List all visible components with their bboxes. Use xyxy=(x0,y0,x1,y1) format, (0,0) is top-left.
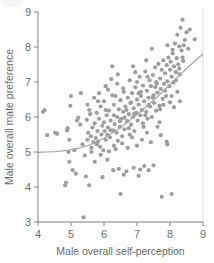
data-point xyxy=(165,79,169,83)
data-point xyxy=(64,181,68,185)
data-point xyxy=(166,55,170,59)
data-point xyxy=(81,215,85,219)
x-tick-label: 8 xyxy=(167,228,173,240)
data-point xyxy=(71,168,75,172)
data-point xyxy=(149,84,153,88)
data-point xyxy=(163,71,167,75)
data-point xyxy=(99,104,103,108)
data-point xyxy=(109,77,113,81)
data-point xyxy=(174,70,178,74)
data-point xyxy=(165,63,169,67)
data-point xyxy=(157,120,161,124)
data-point xyxy=(156,62,160,66)
data-point xyxy=(136,118,140,122)
data-point xyxy=(89,134,93,138)
data-point xyxy=(168,100,172,104)
data-point xyxy=(145,89,149,93)
plot-frame-line xyxy=(38,8,203,222)
data-point xyxy=(159,133,163,137)
data-point xyxy=(107,149,111,153)
data-point xyxy=(104,84,108,88)
data-point xyxy=(161,103,165,107)
data-point xyxy=(117,167,121,171)
data-point xyxy=(110,93,114,97)
plot-frame xyxy=(38,8,203,222)
data-point xyxy=(132,166,136,170)
data-point xyxy=(140,138,144,142)
data-point xyxy=(131,64,135,68)
data-point xyxy=(143,113,147,117)
data-point xyxy=(142,99,146,103)
data-point xyxy=(155,90,159,94)
data-point xyxy=(92,96,96,100)
data-point xyxy=(118,119,122,123)
y-tick-label: 6 xyxy=(25,111,31,123)
data-point xyxy=(182,43,186,47)
data-point xyxy=(93,160,97,164)
data-point xyxy=(120,134,124,138)
y-tick-label: 8 xyxy=(25,41,31,53)
data-point xyxy=(153,65,157,69)
y-tick-label: 5 xyxy=(25,146,31,158)
data-point xyxy=(124,108,128,112)
data-point xyxy=(173,41,177,45)
data-point xyxy=(100,175,104,179)
data-point xyxy=(55,132,59,136)
data-point xyxy=(170,94,174,98)
y-tick-label: 9 xyxy=(25,6,31,18)
data-point xyxy=(99,132,103,136)
data-point xyxy=(133,85,137,89)
data-point xyxy=(133,70,137,74)
x-tick-label: 6 xyxy=(101,228,107,240)
data-point xyxy=(144,58,148,62)
data-point xyxy=(115,82,119,86)
y-tick-label: 7 xyxy=(25,76,31,88)
data-point xyxy=(177,67,181,71)
data-point xyxy=(126,96,130,100)
data-point xyxy=(122,116,126,120)
data-point xyxy=(127,126,131,130)
data-point xyxy=(67,138,71,142)
data-point xyxy=(79,91,83,95)
data-point xyxy=(116,72,120,76)
data-point xyxy=(188,27,192,31)
data-point xyxy=(178,26,182,30)
data-point xyxy=(177,44,181,48)
data-point xyxy=(181,59,185,63)
data-point xyxy=(66,126,70,130)
data-point xyxy=(158,76,162,80)
data-point xyxy=(139,90,143,94)
data-point xyxy=(102,99,106,103)
x-tick-label: 5 xyxy=(68,228,74,240)
data-point xyxy=(141,121,145,125)
data-point xyxy=(85,103,89,107)
data-point xyxy=(146,168,150,172)
data-point xyxy=(103,129,107,133)
scatter-plot-figure: 3456789456789Male overall self-perceptio… xyxy=(0,0,214,263)
data-point xyxy=(160,68,164,72)
data-point xyxy=(120,141,124,145)
data-point xyxy=(171,48,175,52)
data-point xyxy=(43,108,47,112)
data-point xyxy=(135,144,139,148)
data-point xyxy=(159,87,163,91)
data-point xyxy=(186,47,190,51)
data-point xyxy=(155,125,159,129)
x-tick-label: 9 xyxy=(200,228,206,240)
data-point xyxy=(142,125,146,129)
data-point xyxy=(105,158,109,162)
data-point xyxy=(94,136,98,140)
data-point xyxy=(176,62,180,66)
data-point xyxy=(179,48,183,52)
data-point xyxy=(95,111,99,115)
data-point xyxy=(111,168,115,172)
data-point xyxy=(78,123,82,127)
data-point xyxy=(122,90,126,94)
data-point xyxy=(126,146,130,150)
data-point xyxy=(178,99,182,103)
data-point xyxy=(132,129,136,133)
data-point xyxy=(145,131,149,135)
data-point xyxy=(45,133,49,137)
data-point xyxy=(184,30,188,34)
data-point xyxy=(175,90,179,94)
